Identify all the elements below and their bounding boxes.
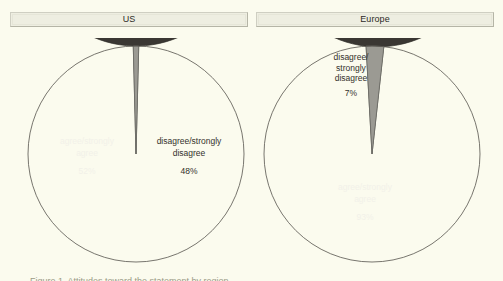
pie-chart-europe-svg (256, 38, 488, 270)
pie-chart-us-svg (20, 38, 252, 270)
figure-two-pie-charts: US Europe agree/strongly agree 52% disag… (0, 0, 503, 281)
panel-title-us-label: US (123, 15, 136, 24)
figure-caption: Figure 1. Attitudes toward the statement… (30, 276, 470, 281)
panel-title-europe-label: Europe (360, 15, 390, 24)
panel-title-europe: Europe (256, 12, 494, 27)
pie-chart-us: agree/strongly agree 52% disagree/strong… (20, 38, 252, 270)
pie-chart-europe: disagree/ strongly disagree 7% agree/str… (256, 38, 488, 270)
pie-slice-europe-disagree (366, 46, 384, 154)
panel-title-us: US (10, 12, 248, 27)
pie-slice-us-disagree (133, 46, 138, 154)
